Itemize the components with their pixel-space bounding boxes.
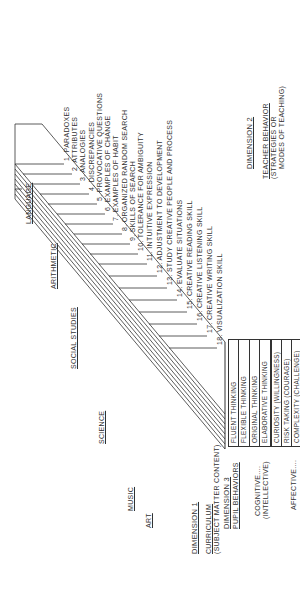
behavior-cell: RISK TAKING (COURAGE) xyxy=(282,340,292,447)
subject-science: SCIENCE xyxy=(98,411,105,444)
subject-music: MUSIC xyxy=(127,487,134,511)
strategy-item: 17. CREATIVE WRITING SKILL xyxy=(206,226,213,333)
pupil-behaviors-table: FLUENT THINKING FLEXIBLE THINKING ORIGIN… xyxy=(228,339,300,447)
strategy-item: 7. EXAMPLES OF HABIT xyxy=(112,135,119,221)
dimension2-title: DIMENSION 2 xyxy=(245,117,254,169)
strategy-item: 11. INTUITIVE EXPRESSION xyxy=(146,161,153,261)
behavior-cell: FLEXIBLE THINKING xyxy=(239,340,249,447)
behavior-cell: FLUENT THINKING xyxy=(229,340,239,447)
dimension2-subtitle-line3: MODES OF TEACHING) xyxy=(278,86,285,169)
strategy-item: 12. ADJUSTMENT TO DEVELOPMENT xyxy=(156,140,163,273)
strategy-item: 16. CREATIVE LISTENING SKILL xyxy=(196,207,203,321)
affective-label: AFFECTIVE.... xyxy=(290,460,297,510)
strategy-item: 2. ATTRIBUTES xyxy=(71,117,78,171)
strategy-item: 4. DISCREPANCIES xyxy=(88,122,95,191)
dimension1-subtitle-line2: (SUBJECT MATTER CONTENT) xyxy=(213,444,220,554)
strategy-item: 3. ANALOGIES xyxy=(79,130,86,181)
dimension2-subtitle-line2: (STRATEGIES OR xyxy=(270,116,277,179)
strategy-item: 15. CREATIVE READING SKILL xyxy=(186,200,193,309)
strategy-item: 6. EXAMPLES OF CHANGE xyxy=(104,116,111,211)
subject-art: ART xyxy=(145,513,152,528)
behavior-cell: ELABORATIVE THINKING xyxy=(260,340,271,447)
williams-model-diagram: DIMENSION 1 CURRICULUM (SUBJECT MATTER C… xyxy=(0,0,300,594)
cognitive-label: COGNITIVE.... xyxy=(254,466,261,516)
dimension1-subtitle-line1: CURRICULUM xyxy=(205,504,212,554)
behavior-cell: COMPLEXITY (CHALLENGE) xyxy=(292,340,300,447)
cognitive-sub: (INTELLECTIVE) xyxy=(262,461,269,519)
behavior-cell: ORIGINAL THINKING xyxy=(249,340,259,447)
strategy-item: 13. STUDY CREATIVE PEOPLE AND PROCESS xyxy=(166,120,173,285)
dimension3-title: DIMENSION 3 xyxy=(222,477,231,529)
dimension1-title: DIMENSION 1 xyxy=(190,502,199,554)
strategy-item: 5. PROVOCATIVE QUESTIONS xyxy=(96,93,103,201)
strategy-item: 8. ORGANIZED RANDOM SEARCH xyxy=(121,110,128,231)
strategy-item: 18. VISUALIZATION SKILL xyxy=(216,253,223,345)
subject-language: LANGUAGE xyxy=(25,183,32,224)
strategy-item: 9. SKILLS OF SEARCH xyxy=(129,161,136,241)
strategy-item: 14. EVALUATE SITUATIONS xyxy=(176,199,183,297)
subject-arithmetic: ARITHMETIC xyxy=(50,243,57,289)
dimension2-subtitle-line1: TEACHER BEHAVIOR xyxy=(262,103,269,179)
strategy-item: 10. TOLERANCE FOR AMBIGUITY xyxy=(137,132,144,251)
subject-social-studies: SOCIAL STUDIES xyxy=(70,307,77,369)
strategy-item: 1. PARADOXES xyxy=(63,107,70,161)
behavior-cell: CURIOSITY (WILLINGNESS) xyxy=(271,340,282,447)
dimension3-subtitle: PUPIL BEHAVIORS xyxy=(232,462,239,529)
